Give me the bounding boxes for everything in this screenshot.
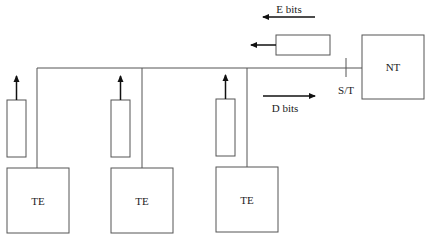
te-2-label: TE	[135, 196, 148, 207]
d-bits-label: D bits	[272, 103, 299, 114]
te-3-label: TE	[240, 195, 253, 206]
te-2-register-box	[111, 100, 130, 157]
nt-label: NT	[386, 62, 401, 73]
echo-register-box	[276, 35, 330, 55]
te-1-label: TE	[31, 196, 44, 207]
te-3-register-box	[216, 99, 235, 156]
e-bits-label: E bits	[276, 4, 301, 15]
s-t-label: S/T	[338, 85, 354, 96]
te-1-register-box	[7, 100, 26, 157]
diagram-canvas	[0, 0, 427, 239]
